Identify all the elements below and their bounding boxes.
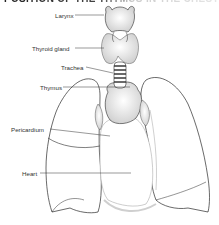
thyroid-gland <box>102 34 139 64</box>
label-heart: Heart <box>22 170 37 177</box>
label-trachea: Trachea <box>61 64 83 71</box>
chest-anatomy-illustration <box>0 0 219 225</box>
label-pericardium: Pericardium <box>11 126 44 133</box>
trachea <box>114 62 126 88</box>
left-lung <box>46 79 101 213</box>
label-thyroid-gland: Thyroid gland <box>32 45 70 52</box>
label-larynx: Larynx <box>55 12 74 19</box>
label-thymus: Thymus <box>40 84 62 91</box>
